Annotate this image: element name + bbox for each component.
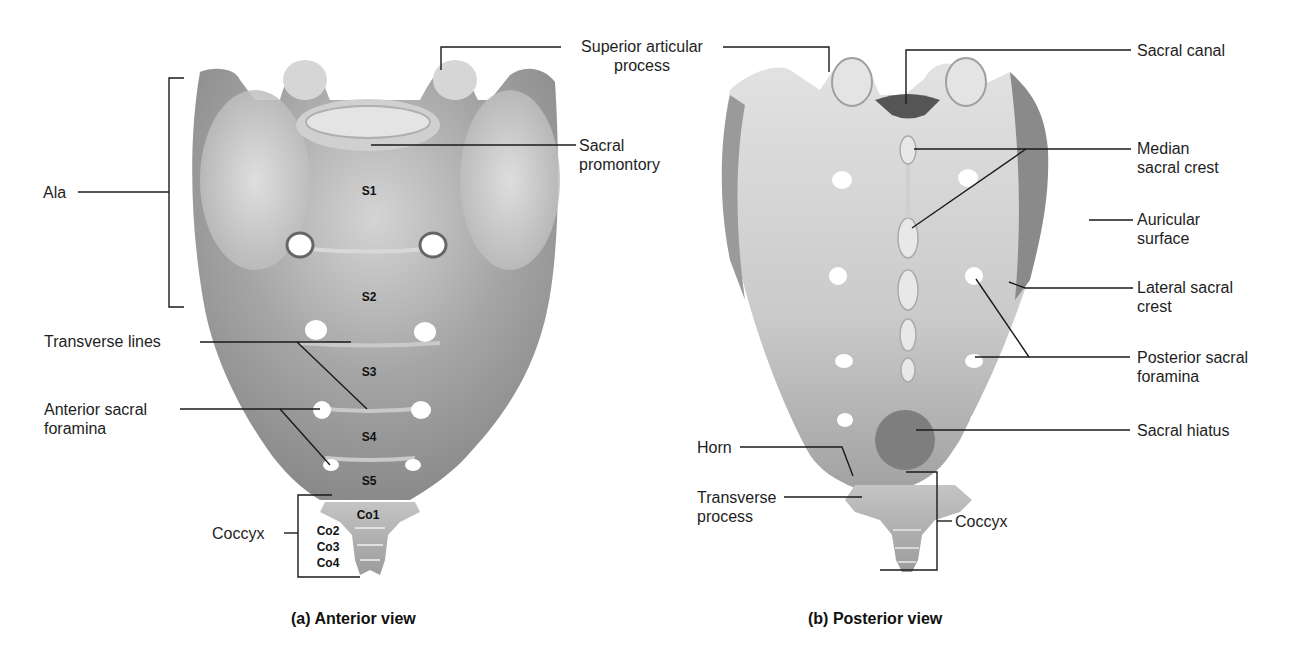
label-ala: Ala xyxy=(43,183,66,202)
segment-s3: S3 xyxy=(356,365,382,379)
label-superior-articular-process: Superior articular process xyxy=(563,37,721,75)
label-sacral-hiatus: Sacral hiatus xyxy=(1137,421,1230,440)
label-auricular-surface: Auricular surface xyxy=(1137,210,1200,248)
sacrum-coccyx-figure: Ala Superior articular process Sacral pr… xyxy=(0,0,1313,649)
segment-co2: Co2 xyxy=(310,524,346,538)
label-anterior-sacral-foramina: Anterior sacral foramina xyxy=(44,400,147,438)
segment-s4: S4 xyxy=(356,430,382,444)
label-coccyx-posterior: Coccyx xyxy=(955,512,1007,531)
bone-illustrations xyxy=(0,0,1313,649)
label-lateral-sacral-crest: Lateral sacral crest xyxy=(1137,278,1233,316)
anterior-sacrum xyxy=(192,60,560,575)
segment-s5: S5 xyxy=(356,474,382,488)
label-transverse-process: Transverse process xyxy=(697,488,776,526)
segment-s2: S2 xyxy=(356,290,382,304)
segment-co3: Co3 xyxy=(310,540,346,554)
label-horn: Horn xyxy=(697,438,732,457)
caption-anterior-view: (a) Anterior view xyxy=(291,610,416,628)
label-coccyx-anterior: Coccyx xyxy=(212,524,264,543)
label-posterior-sacral-foramina: Posterior sacral foramina xyxy=(1137,348,1248,386)
segment-co1: Co1 xyxy=(350,508,386,522)
label-sacral-promontory: Sacral promontory xyxy=(579,136,660,174)
segment-s1: S1 xyxy=(356,184,382,198)
label-sacral-canal: Sacral canal xyxy=(1137,41,1225,60)
segment-co4: Co4 xyxy=(310,556,346,570)
label-transverse-lines: Transverse lines xyxy=(44,332,161,351)
label-median-sacral-crest: Median sacral crest xyxy=(1137,139,1219,177)
caption-posterior-view: (b) Posterior view xyxy=(808,610,942,628)
